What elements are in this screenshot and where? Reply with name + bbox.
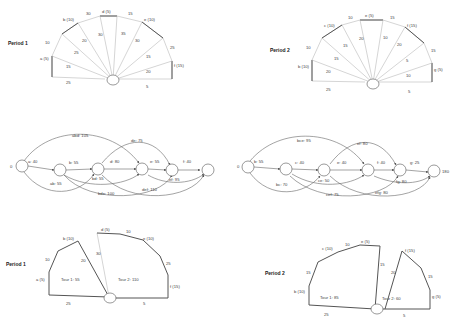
diagram-label: 180 [442, 169, 450, 174]
diagram-label: 25 [74, 50, 79, 55]
diagram-label: e (5) [365, 13, 374, 18]
graph-node [428, 165, 440, 177]
diagram-label: 15 [428, 274, 433, 279]
diagram-label: b: 55 [254, 159, 264, 164]
diagram-label: 30 [135, 38, 140, 43]
graph-node [136, 163, 148, 175]
diagram-label: 15 [306, 270, 311, 275]
diagram-label: f (15) [174, 63, 184, 68]
diagram-label: 15 [380, 262, 385, 267]
diagram-label: a (5) [36, 277, 45, 282]
tours-period-1: Period 1 a (5) b (10) d (5) e (10) f (15… [6, 227, 180, 306]
diagram-label: g (5) [434, 67, 443, 72]
fan-period-1: Period 1 a (5) b (10) d (5) e (10) f (15… [8, 9, 184, 89]
diagram-label: c (10) [322, 246, 333, 251]
diagram-label: 5 [408, 89, 411, 94]
diagram-label: 10 [406, 73, 411, 78]
graph-node [54, 164, 66, 176]
diagram-label: d: 80 [110, 159, 120, 164]
diagram-label: f: 40 [377, 160, 386, 165]
diagram-label: bce: 95 [297, 138, 311, 143]
diagram-label: 25 [166, 261, 171, 266]
diagram-label: 35 [121, 31, 126, 36]
diagram-label: 20 [391, 270, 396, 275]
diagram-label: f (15) [405, 248, 415, 253]
diagram-label: 15 [431, 48, 436, 53]
diagram-label: c (10) [324, 23, 335, 28]
diagram-label: ef: 95 [169, 177, 180, 182]
diagram-label: e (10) [144, 17, 156, 22]
diagram-label: abd: 105 [72, 133, 89, 138]
diagram-label: e: 55 [150, 159, 160, 164]
diagram-label: e: 40 [337, 160, 347, 165]
tour-2-label: Tour 2: 110 [118, 277, 139, 282]
diagram-label: 5 [143, 301, 146, 306]
diagram-label: b (10) [298, 64, 310, 69]
diagram-label: cef: 75 [326, 192, 339, 197]
diagram-label: b (10) [63, 17, 75, 22]
diagram-label: 10 [345, 242, 350, 247]
tour-2-label: Tour 2: 60 [382, 296, 401, 301]
graph-node [202, 164, 214, 176]
graph-node [362, 164, 374, 176]
diagram-label: 30 [86, 11, 91, 16]
diagram-label: 5 [146, 84, 149, 89]
diagram-label: 30 [98, 32, 103, 37]
tour-1-label: Tour 1: 55 [61, 277, 80, 282]
period-title: Period 1 [8, 40, 28, 46]
diagram-label: 15 [390, 15, 395, 20]
diagram-label: 0 [10, 164, 13, 169]
diagram-label: 10 [383, 35, 388, 40]
graph-node [280, 163, 292, 175]
diagram-label: 10 [306, 45, 311, 50]
graph-node [318, 164, 330, 176]
diagram-label: b (10) [294, 289, 306, 294]
diagram-label: f (15) [407, 23, 417, 28]
diagram-label: 30 [96, 251, 101, 256]
diagram-label: 25 [66, 301, 71, 306]
tours-period-2: Period 2 b (10) c (10) e (5) f (15) g (5… [265, 239, 441, 318]
graph-node [394, 164, 406, 176]
diagram-label: 0 [237, 164, 240, 169]
tour-1-label: Tour 1: 85 [320, 295, 339, 300]
diagram-label: f: 40 [183, 159, 192, 164]
diagram-label: 20 [397, 42, 402, 47]
diagram-label: e (5) [361, 239, 370, 244]
diagram-label: 15 [343, 43, 348, 48]
diagram-label: 15 [334, 56, 339, 61]
diagram-label: 15 [146, 54, 151, 59]
diagram-label: 10 [126, 229, 131, 234]
diagram-label: bd: 55 [92, 176, 104, 181]
diagram-label: a (5) [40, 56, 49, 61]
period-title: Period 1 [6, 261, 26, 267]
diagram-label: 25 [326, 87, 331, 92]
diagram-label: ce: 50 [318, 178, 330, 183]
graph-node [166, 164, 178, 176]
period-title: Period 2 [265, 270, 285, 276]
period-title: Period 2 [270, 47, 290, 53]
diagram-label: 15 [128, 11, 133, 16]
fan-period-2: Period 2 b (10) c (10) e (5) f (15) g (5… [270, 13, 443, 94]
diagram-label: b: 55 [69, 160, 79, 165]
diagram-label: f (15) [170, 284, 180, 289]
diagram-label: def: 110 [142, 187, 157, 192]
diagram-label: 20 [326, 69, 331, 74]
diagram-label: ef: 80 [357, 141, 368, 146]
diagram-label: c: 40 [295, 160, 305, 165]
graph-period-1: 0 a: 40 b: 55 d: 80 e: 55 f: 40 abd: 105… [10, 133, 214, 196]
diagram-label: 25 [66, 80, 71, 85]
diagram-label: 5 [406, 58, 409, 63]
diagram-label: b (10) [63, 236, 75, 241]
diagram-label: bc: 70 [276, 182, 288, 187]
depot-node [107, 75, 119, 85]
graph-node [242, 161, 254, 173]
diagram-label: 5 [403, 313, 406, 318]
diagram-label: 20 [81, 258, 86, 263]
graph-period-2: 0 180 b: 55 c: 40 e: 40 f: 40 g: 25 bce:… [237, 136, 450, 197]
diagram-label: 20 [146, 69, 151, 74]
diagram-label: d (5) [101, 227, 110, 232]
graph-node [92, 163, 104, 175]
diagram-label: 10 [45, 40, 50, 45]
diagram-label: bde: 100 [98, 191, 115, 196]
diagram-label: de: 75 [131, 138, 143, 143]
